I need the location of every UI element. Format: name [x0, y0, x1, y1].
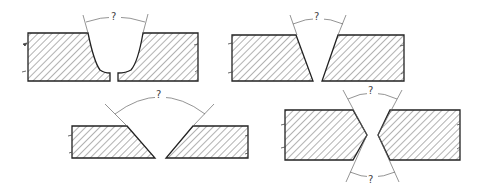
angle-label-top: ? [368, 85, 373, 96]
left-plate [285, 110, 367, 160]
angle-label-bottom: ? [368, 174, 373, 185]
figure-v-groove-narrow: ? [228, 11, 404, 81]
figure-v-groove-wide: ? [68, 89, 248, 158]
right-plate [378, 110, 460, 160]
figure-x-groove: ? ? [281, 85, 460, 185]
right-plate [118, 33, 198, 81]
left-plate [72, 126, 155, 158]
weld-diagram: ? ? ? ? ? [0, 0, 481, 187]
right-plate [166, 126, 248, 158]
angle-label: ? [314, 11, 319, 22]
angle-label: ? [156, 89, 161, 100]
right-plate [322, 35, 404, 81]
angle-label: ? [111, 11, 116, 22]
figure-u-groove: ? [22, 11, 198, 81]
left-plate [28, 33, 110, 81]
left-plate [232, 35, 313, 81]
